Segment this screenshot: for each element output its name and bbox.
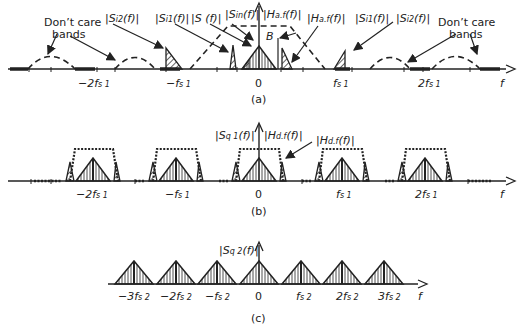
tick-zero: 0 xyxy=(255,188,262,201)
tick-neg-3fs2: −3fs 2 xyxy=(118,290,150,303)
h-df-right-label: |Hd.f(f)| xyxy=(316,134,355,147)
tick-zero: 0 xyxy=(255,290,262,303)
dont-care-right-label-2: bands xyxy=(449,28,483,41)
panel-a: Don’t care bands |Si2(f)| |Si1(f)| |S (f… xyxy=(8,3,515,106)
tick-2fs1: 2fs 1 xyxy=(415,188,438,201)
panel-c: |Sq 2(f)| −3fs 2 −2fs 2 −fs 2 0 fs 2 2fs… xyxy=(108,242,427,325)
panel-b: |Sq 1(f)| |Hd.f(f)| |Hd.f(f)| −2fs 1 −fs… xyxy=(8,123,515,218)
tick-2fs1: 2fs 1 xyxy=(418,77,441,90)
tick-zero: 0 xyxy=(255,77,262,90)
tick-neg-2fs1: −2fs 1 xyxy=(78,77,110,90)
s-q1-label: |Sq 1(f)| xyxy=(215,129,255,142)
tick-fs2: fs 2 xyxy=(296,290,312,303)
s-i2-left-label: |Si2(f)| xyxy=(105,12,139,25)
bandwidth-label: B xyxy=(266,30,274,43)
s-i1-left-label: |Si1(f)| xyxy=(155,12,189,25)
dont-care-left-label-2: bands xyxy=(52,28,86,41)
axis-arrow-icon xyxy=(506,65,515,73)
h-df-top-label: |Hd.f(f)| xyxy=(264,129,303,142)
axis-f-label: f xyxy=(500,188,506,201)
s-in-label: |Sin(f)| xyxy=(225,8,259,21)
s-i1-right-small xyxy=(282,48,292,69)
tick-neg-2fs2: −2fs 2 xyxy=(160,290,192,303)
axis-f-label: f xyxy=(500,77,506,90)
tick-3fs2: 3fs 2 xyxy=(378,290,401,303)
s-q2-label: |Sq 2(f)| xyxy=(219,244,259,257)
s-i2-left-spectrum xyxy=(166,48,182,69)
tick-fs1: fs 1 xyxy=(336,188,352,201)
tick-neg-fs1: −fs 1 xyxy=(166,77,191,90)
tick-neg-fs2: −fs 2 xyxy=(205,290,230,303)
tick-neg-fs1: −fs 1 xyxy=(165,188,190,201)
caption-c: (c) xyxy=(251,312,266,325)
spectrum-figure: Don’t care bands |Si2(f)| |Si1(f)| |S (f… xyxy=(0,0,518,334)
tick-fs1: fs 1 xyxy=(333,77,349,90)
s-i1-right-label: |Si1(f)| xyxy=(355,12,389,25)
h-af-top-label: |Ha.f(f)| xyxy=(263,8,301,21)
axis-arrow-icon xyxy=(418,280,427,288)
axis-arrow-icon xyxy=(506,177,515,185)
s-i1-right-spectrum xyxy=(334,51,345,69)
s-f-label: |S (f)| xyxy=(191,12,221,25)
h-af-right-label: |Ha.f(f)| xyxy=(307,12,345,25)
tick-2fs2: 2fs 2 xyxy=(336,290,359,303)
tick-neg-2fs1: −2fs 1 xyxy=(76,188,108,201)
caption-b: (b) xyxy=(251,205,267,218)
axis-f-label: f xyxy=(418,290,424,303)
s-f-spectrum xyxy=(230,45,236,69)
s-i2-right-label: |Si2(f)| xyxy=(396,12,430,25)
caption-a: (a) xyxy=(251,93,266,106)
